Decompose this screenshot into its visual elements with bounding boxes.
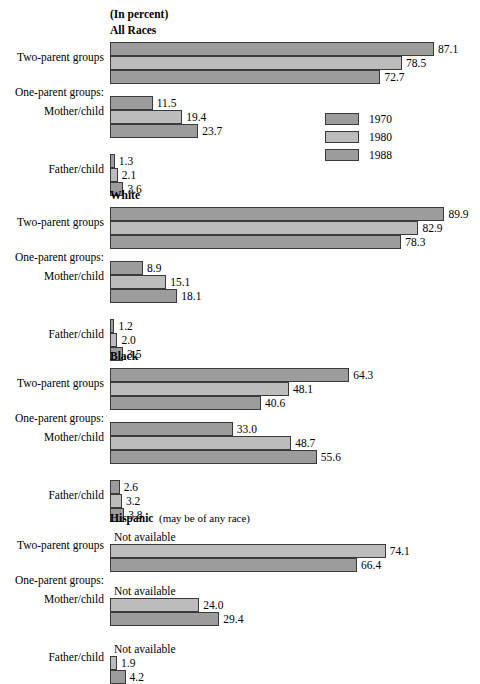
value-label: 82.9 bbox=[422, 222, 442, 234]
bar-white-mother-child-1988 bbox=[110, 289, 177, 303]
panel-note: (may be of any race) bbox=[153, 512, 250, 524]
value-label: 74.1 bbox=[390, 545, 410, 557]
category-label-one-parent-groups: One-parent groups: bbox=[0, 251, 104, 263]
bar-white-father-child-1970 bbox=[110, 319, 114, 333]
category-label-two-parent-groups: Two-parent groups bbox=[0, 539, 104, 551]
value-label: 8.9 bbox=[147, 262, 161, 274]
bar-all-races-two-parent-groups-1988 bbox=[110, 70, 380, 84]
bar-all-races-mother-child-1980 bbox=[110, 110, 182, 124]
value-label: 64.3 bbox=[353, 369, 373, 381]
value-label: 1.3 bbox=[119, 155, 133, 167]
category-label-mother-child: Mother/child bbox=[0, 593, 104, 605]
bar-all-races-father-child-1980 bbox=[110, 168, 118, 182]
category-label-mother-child: Mother/child bbox=[0, 105, 104, 117]
bar-black-two-parent-groups-1980 bbox=[110, 382, 289, 396]
category-label-father-child: Father/child bbox=[0, 328, 104, 340]
not-available-text: Not available bbox=[114, 643, 176, 655]
value-label: 2.0 bbox=[121, 334, 135, 346]
value-label: 2.1 bbox=[122, 169, 136, 181]
bar-all-races-two-parent-groups-1980 bbox=[110, 56, 402, 70]
value-label: 2.6 bbox=[124, 481, 138, 493]
value-label: 11.5 bbox=[157, 97, 177, 109]
bar-all-races-two-parent-groups-1970 bbox=[110, 42, 434, 56]
category-label-two-parent-groups: Two-parent groups bbox=[0, 377, 104, 389]
bar-all-races-mother-child-1988 bbox=[110, 124, 198, 138]
value-label: 4.2 bbox=[130, 671, 144, 683]
bar-hispanic-father-child-1980 bbox=[110, 656, 117, 670]
category-label-father-child: Father/child bbox=[0, 651, 104, 663]
category-label-two-parent-groups: Two-parent groups bbox=[0, 51, 104, 63]
panel-title-white: White bbox=[110, 189, 140, 201]
bar-black-father-child-1970 bbox=[110, 480, 120, 494]
legend-swatch-1980 bbox=[325, 131, 359, 143]
bar-black-mother-child-1980 bbox=[110, 436, 291, 450]
value-label: 40.6 bbox=[265, 397, 285, 409]
value-label: 29.4 bbox=[223, 613, 243, 625]
value-label: 89.9 bbox=[448, 208, 468, 220]
category-label-father-child: Father/child bbox=[0, 489, 104, 501]
panel-title-black: Black bbox=[110, 350, 138, 362]
bar-white-father-child-1980 bbox=[110, 333, 117, 347]
value-label: 1.2 bbox=[118, 320, 132, 332]
bar-black-mother-child-1988 bbox=[110, 450, 317, 464]
legend-label-1988: 1988 bbox=[369, 149, 392, 161]
value-label: 66.4 bbox=[361, 559, 381, 571]
legend-label-1980: 1980 bbox=[369, 131, 392, 143]
category-label-mother-child: Mother/child bbox=[0, 270, 104, 282]
category-label-mother-child: Mother/child bbox=[0, 431, 104, 443]
value-label: 48.1 bbox=[293, 383, 313, 395]
value-label: 3.2 bbox=[126, 495, 140, 507]
bar-black-two-parent-groups-1970 bbox=[110, 368, 349, 382]
panel-title-all races: All Races bbox=[110, 24, 156, 36]
bar-white-two-parent-groups-1988 bbox=[110, 235, 401, 249]
bar-hispanic-father-child-1988 bbox=[110, 670, 126, 684]
bar-white-two-parent-groups-1980 bbox=[110, 221, 418, 235]
panel-title-hispanic: Hispanic (may be of any race) bbox=[110, 512, 250, 524]
value-label: 18.1 bbox=[181, 290, 201, 302]
legend-label-1970: 1970 bbox=[369, 113, 392, 125]
value-label: 72.7 bbox=[384, 71, 404, 83]
legend-swatch-1970 bbox=[325, 113, 359, 125]
bar-white-two-parent-groups-1970 bbox=[110, 207, 444, 221]
value-label: 78.3 bbox=[405, 236, 425, 248]
units-caption: (In percent) bbox=[110, 8, 168, 20]
bar-hispanic-two-parent-groups-1980 bbox=[110, 544, 386, 558]
bar-all-races-mother-child-1970 bbox=[110, 96, 153, 110]
bar-all-races-father-child-1970 bbox=[110, 154, 115, 168]
bar-white-mother-child-1980 bbox=[110, 275, 166, 289]
bar-black-mother-child-1970 bbox=[110, 422, 233, 436]
category-label-one-parent-groups: One-parent groups: bbox=[0, 574, 104, 586]
value-label: 15.1 bbox=[170, 276, 190, 288]
value-label: 87.1 bbox=[438, 43, 458, 55]
category-label-one-parent-groups: One-parent groups: bbox=[0, 86, 104, 98]
category-label-father-child: Father/child bbox=[0, 163, 104, 175]
bar-hispanic-two-parent-groups-1988 bbox=[110, 558, 357, 572]
bar-hispanic-mother-child-1988 bbox=[110, 612, 219, 626]
not-available-text: Not available bbox=[114, 585, 176, 597]
not-available-text: Not available bbox=[114, 531, 176, 543]
value-label: 19.4 bbox=[186, 111, 206, 123]
category-label-one-parent-groups: One-parent groups: bbox=[0, 412, 104, 424]
bar-black-father-child-1980 bbox=[110, 494, 122, 508]
bar-black-two-parent-groups-1988 bbox=[110, 396, 261, 410]
legend-swatch-1988 bbox=[325, 149, 359, 161]
value-label: 55.6 bbox=[321, 451, 341, 463]
bar-hispanic-mother-child-1980 bbox=[110, 598, 199, 612]
value-label: 23.7 bbox=[202, 125, 222, 137]
value-label: 78.5 bbox=[406, 57, 426, 69]
bar-white-mother-child-1970 bbox=[110, 261, 143, 275]
value-label: 1.9 bbox=[121, 657, 135, 669]
value-label: 24.0 bbox=[203, 599, 223, 611]
category-label-two-parent-groups: Two-parent groups bbox=[0, 216, 104, 228]
value-label: 48.7 bbox=[295, 437, 315, 449]
value-label: 33.0 bbox=[237, 423, 257, 435]
